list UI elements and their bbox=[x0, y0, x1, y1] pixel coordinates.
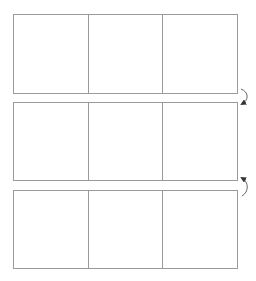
panel-row-1 bbox=[13, 14, 238, 94]
panel-row-2-cell-2 bbox=[89, 103, 164, 180]
panel-row-3-cell-1 bbox=[14, 191, 89, 268]
panel-row-3 bbox=[13, 190, 238, 269]
panel-row-2-cell-3 bbox=[163, 103, 237, 180]
panel-row-1-cell-3 bbox=[163, 15, 237, 93]
panel-row-2 bbox=[13, 102, 238, 181]
curved-arrow-up-icon bbox=[242, 178, 247, 196]
panel-row-1-cell-1 bbox=[14, 15, 89, 93]
panel-row-2-cell-1 bbox=[14, 103, 89, 180]
panel-row-3-cell-2 bbox=[89, 191, 164, 268]
panel-row-1-cell-2 bbox=[89, 15, 164, 93]
curved-arrow-down-icon bbox=[241, 89, 247, 104]
panel-row-3-cell-3 bbox=[163, 191, 237, 268]
